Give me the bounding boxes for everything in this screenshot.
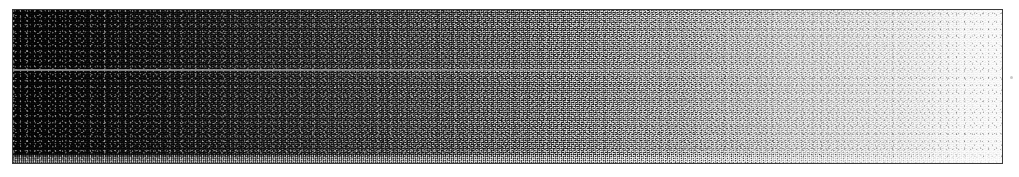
scan-figure (0, 0, 1019, 177)
density-wedge-plate (12, 9, 1003, 164)
margin-speck (1010, 76, 1013, 79)
speckle-layer (13, 10, 1002, 163)
